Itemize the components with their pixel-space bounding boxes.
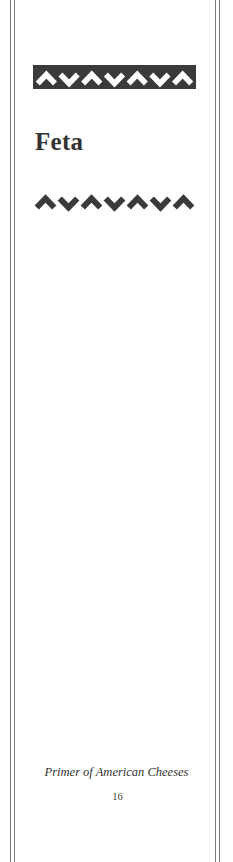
chevron-up-mark: [38, 75, 55, 84]
right-border-outer-rule: [219, 0, 220, 862]
chevron-down-mark: [60, 75, 77, 84]
left-border-inner-rule: [14, 0, 15, 862]
running-footer-title: Primer of American Cheeses: [0, 764, 233, 780]
chevron-down-mark: [106, 75, 123, 84]
chevron-down-mark: [106, 199, 123, 208]
chevron-up-mark: [129, 75, 146, 84]
page-number: 16: [0, 790, 233, 804]
chevron-down-mark: [152, 199, 169, 208]
chevron-up-mark: [129, 199, 146, 208]
top-ornament-band: [33, 65, 196, 89]
chevron-down-mark: [60, 199, 77, 208]
left-border-outer-rule: [10, 0, 11, 862]
chevron-up-mark: [83, 75, 100, 84]
chevron-up-mark: [37, 199, 54, 208]
title-ornament: [33, 193, 196, 213]
chevron-down-mark: [151, 75, 168, 84]
chevron-up-mark: [175, 199, 192, 208]
chevron-frieze-icon: [33, 65, 196, 89]
right-border-inner-rule: [215, 0, 216, 862]
chevron-frieze-icon: [33, 193, 196, 213]
chevron-up-mark: [83, 199, 100, 208]
chevron-up-mark: [174, 75, 191, 84]
chapter-title: Feta: [35, 127, 83, 157]
